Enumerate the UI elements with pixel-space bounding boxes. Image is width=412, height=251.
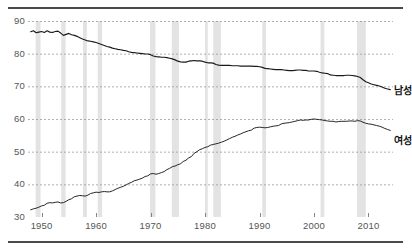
series-label-female: 여성 (394, 136, 412, 146)
top-rule (8, 7, 403, 9)
y-tick-label: 70 (3, 81, 25, 91)
recession-band (172, 21, 179, 217)
recession-band (61, 21, 65, 217)
bottom-rule (8, 241, 403, 243)
recession-band (205, 21, 208, 217)
recession-band (83, 21, 87, 217)
x-tick-label: 1960 (85, 221, 107, 231)
series-label-male: 남성 (394, 86, 412, 96)
x-tick-label: 2010 (358, 221, 380, 231)
y-tick-label: 80 (3, 49, 25, 59)
gridlines (28, 22, 393, 218)
recession-band (321, 21, 325, 217)
x-tick-label: 1980 (194, 221, 216, 231)
x-axis-tick-labels: 1950196019701980199020002010 (28, 221, 393, 237)
recession-band (262, 21, 266, 217)
x-tick-label: 1950 (31, 221, 53, 231)
chart-svg (28, 21, 393, 217)
recession-band (150, 21, 155, 217)
recession-band (98, 21, 102, 217)
recession-band (36, 21, 41, 217)
plot-area (28, 21, 393, 217)
y-tick-label: 60 (3, 114, 25, 124)
plot-canvas (28, 21, 393, 217)
y-tick-label: 40 (3, 179, 25, 189)
x-tick-marks (43, 213, 369, 217)
x-tick-label: 1990 (249, 221, 271, 231)
y-tick-label: 50 (3, 147, 25, 157)
y-tick-label: 90 (3, 16, 25, 26)
x-tick-label: 1970 (140, 221, 162, 231)
recession-band (357, 21, 366, 217)
y-axis-tick-labels: 30405060708090 (0, 21, 25, 217)
y-tick-label: 30 (3, 212, 25, 222)
x-tick-label: 2000 (303, 221, 325, 231)
recession-band (213, 21, 221, 217)
